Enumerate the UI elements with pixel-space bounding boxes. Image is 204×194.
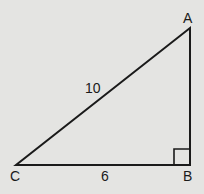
triangle-abc xyxy=(16,28,190,165)
right-angle-marker xyxy=(174,149,190,165)
vertex-a-label: A xyxy=(183,10,193,26)
vertex-c-label: C xyxy=(10,168,20,184)
vertex-b-label: B xyxy=(183,168,192,184)
triangle-diagram: A B C 10 6 xyxy=(0,0,204,194)
base-label: 6 xyxy=(101,168,109,184)
hypotenuse-label: 10 xyxy=(85,80,101,96)
